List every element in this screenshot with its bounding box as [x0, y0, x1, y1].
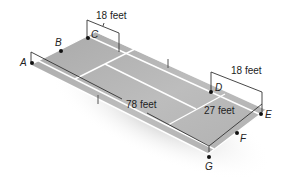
- dimension-label-end: 27 feet: [204, 105, 235, 116]
- svg-text:D: D: [215, 82, 222, 93]
- dimension-label-length: 78 feet: [126, 99, 157, 110]
- tennis-court-diagram: 18 feet 18 feet 78 feet 27 feet A B C D: [0, 0, 285, 182]
- svg-text:C: C: [91, 29, 99, 40]
- svg-text:E: E: [265, 109, 272, 120]
- dimension-label-top: 18 feet: [96, 10, 127, 21]
- point-C: C: [86, 29, 99, 40]
- dimension-label-right: 18 feet: [231, 65, 262, 76]
- svg-text:A: A: [19, 57, 27, 68]
- svg-text:G: G: [205, 161, 213, 172]
- svg-text:F: F: [240, 133, 247, 144]
- svg-text:B: B: [55, 37, 62, 48]
